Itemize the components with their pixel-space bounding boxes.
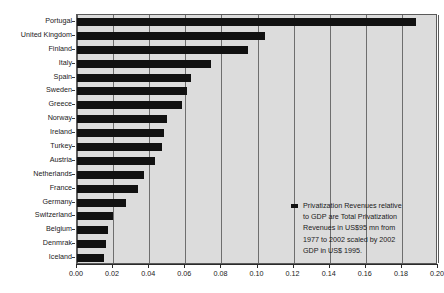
x-axis-tick — [401, 264, 402, 268]
category-label: Portugal — [0, 17, 72, 25]
category-tick — [72, 229, 75, 230]
category-label: Norway — [0, 114, 72, 122]
bar — [77, 101, 182, 109]
bar — [77, 226, 108, 234]
x-axis-tick-label: 0.18 — [394, 269, 408, 278]
category-tick — [72, 21, 75, 22]
x-axis-tick — [437, 264, 438, 268]
bar — [77, 185, 138, 193]
category-label: United Kingdom — [0, 31, 72, 39]
category-tick — [72, 160, 75, 161]
x-axis-tick — [112, 264, 113, 268]
x-axis-tick — [329, 264, 330, 268]
category-label: Ireland — [0, 128, 72, 136]
category-tick — [72, 90, 75, 91]
bar — [77, 199, 126, 207]
category-tick — [72, 202, 75, 203]
category-label: Italy — [0, 59, 72, 67]
category-tick — [72, 77, 75, 78]
x-axis-tick — [184, 264, 185, 268]
legend-text-line: Revenues in US$95 mn from — [303, 222, 431, 233]
bar — [77, 18, 416, 26]
x-axis-tick-label: 0.16 — [358, 269, 372, 278]
x-axis-tick — [293, 264, 294, 268]
bar — [77, 46, 248, 54]
category-axis: PortugalUnited KingdomFinlandItalySpainS… — [0, 14, 72, 264]
category-tick — [72, 63, 75, 64]
category-label: Finland — [0, 45, 72, 53]
x-axis-tick — [220, 264, 221, 268]
x-axis-tick — [76, 264, 77, 268]
category-label: Greece — [0, 100, 72, 108]
category-tick — [72, 215, 75, 216]
category-label: Turkey — [0, 142, 72, 150]
category-label: Iceland — [0, 253, 72, 261]
bar — [77, 212, 113, 220]
bar — [77, 115, 167, 123]
x-axis-tick-label: 0.06 — [177, 269, 191, 278]
x-axis-tick-label: 0.04 — [141, 269, 155, 278]
category-label: Germany — [0, 198, 72, 206]
bar — [77, 32, 265, 40]
category-tick — [72, 132, 75, 133]
legend-text-line: to GDP are Total Privatization — [303, 211, 431, 222]
x-axis-tick — [148, 264, 149, 268]
category-label: France — [0, 184, 72, 192]
x-axis-tick-label: 0.14 — [322, 269, 336, 278]
category-label: Denmrak — [0, 239, 72, 247]
bar — [77, 157, 155, 165]
bar — [77, 129, 164, 137]
x-axis-tick-label: 0.12 — [286, 269, 300, 278]
legend-text-line: GDP in US$ 1995. — [303, 245, 431, 256]
category-tick — [72, 49, 75, 50]
category-tick — [72, 146, 75, 147]
category-tick — [72, 188, 75, 189]
x-axis-tick-label: 0.08 — [213, 269, 227, 278]
x-axis-tick — [365, 264, 366, 268]
bar — [77, 240, 106, 248]
bar — [77, 87, 187, 95]
category-tick — [72, 243, 75, 244]
bar — [77, 254, 104, 262]
category-label: Austria — [0, 156, 72, 164]
category-label: Belgium — [0, 225, 72, 233]
category-tick — [72, 174, 75, 175]
bar — [77, 60, 211, 68]
gridline — [438, 15, 439, 263]
x-axis-tick-label: 0.20 — [430, 269, 444, 278]
category-tick — [72, 35, 75, 36]
legend-text-line: Privatization Revenues relative — [303, 200, 431, 211]
x-axis-tick-label: 0.00 — [69, 269, 83, 278]
category-tick — [72, 257, 75, 258]
bar — [77, 171, 144, 179]
category-tick — [72, 118, 75, 119]
category-label: Spain — [0, 73, 72, 81]
legend-swatch-icon — [291, 204, 298, 208]
x-axis-tick — [257, 264, 258, 268]
legend-text-line: 1977 to 2002 scaled by 2002 — [303, 234, 431, 245]
bar — [77, 143, 162, 151]
bar — [77, 74, 191, 82]
legend-text: Privatization Revenues relativeto GDP ar… — [303, 200, 431, 256]
category-tick — [72, 104, 75, 105]
category-label: Sweden — [0, 86, 72, 94]
x-axis-tick-label: 0.02 — [105, 269, 119, 278]
category-label: Netherlands — [0, 170, 72, 178]
category-label: Switzerland — [0, 211, 72, 219]
x-axis-tick-label: 0.10 — [250, 269, 264, 278]
